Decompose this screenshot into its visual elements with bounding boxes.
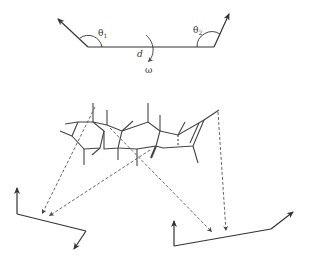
up-right-arrow-icon [271, 212, 293, 229]
vector-left-arrow-icon [58, 19, 88, 47]
bottom-left-schematic [17, 188, 86, 249]
bottom-right-schematic [174, 212, 293, 246]
dihedral-rotation-arrow-icon [146, 35, 153, 62]
ring-c [118, 122, 160, 149]
dashed-arrow-2 [49, 150, 150, 216]
distance-label: d [137, 49, 143, 59]
ring-a [72, 122, 104, 149]
theta2-label: θ2 [193, 25, 202, 36]
dihedral-label: ω [145, 65, 152, 75]
top-schematic: θ1 θ2 d ω [58, 14, 229, 75]
correspondence-arrows [42, 107, 226, 232]
dashed-arrow-3 [110, 128, 212, 232]
theta1-label: θ1 [98, 28, 107, 39]
dashed-arrow-4 [218, 112, 226, 231]
ring-d [156, 120, 204, 148]
vector-right-arrow-icon [214, 14, 229, 47]
figure-canvas: θ1 θ2 d ω [0, 0, 309, 263]
down-arrow-icon [74, 231, 86, 249]
